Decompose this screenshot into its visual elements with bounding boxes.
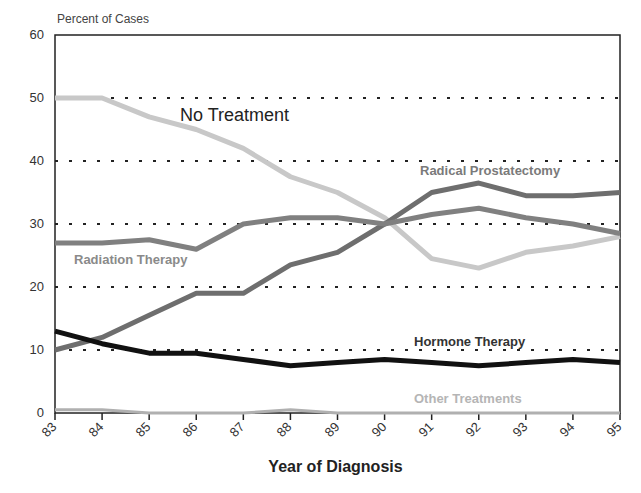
y-tick-label: 0 <box>22 405 44 420</box>
y-tick-label: 50 <box>22 90 44 105</box>
label-no-treatment: No Treatment <box>180 105 289 126</box>
y-tick-label: 30 <box>22 216 44 231</box>
series-other-treatments <box>55 410 620 413</box>
y-tick-label: 10 <box>22 342 44 357</box>
label-radical-prostatectomy: Radical Prostatectomy <box>420 163 560 178</box>
gridlines <box>55 98 620 350</box>
label-radiation-therapy: Radiation Therapy <box>74 252 187 267</box>
series-radiation-therapy <box>55 208 620 249</box>
label-other-treatments: Other Treatments <box>414 391 522 406</box>
series-hormone-therapy <box>55 331 620 366</box>
y-tick-label: 20 <box>22 279 44 294</box>
label-hormone-therapy: Hormone Therapy <box>414 334 525 349</box>
y-axis-title: Percent of Cases <box>57 12 149 26</box>
y-tick-label: 40 <box>22 153 44 168</box>
y-tick-label: 60 <box>22 27 44 42</box>
x-axis-title: Year of Diagnosis <box>0 458 641 476</box>
